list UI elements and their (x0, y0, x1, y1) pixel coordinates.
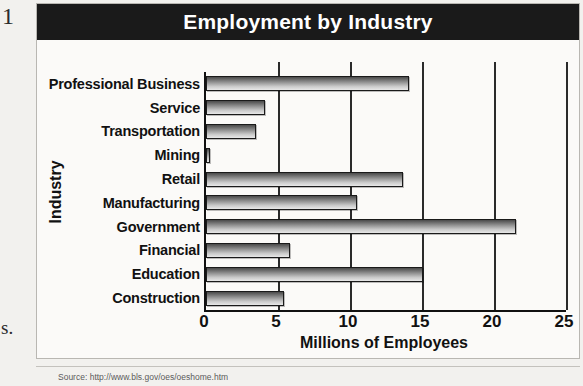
page-divider-rule (36, 366, 580, 367)
bar-row (206, 72, 409, 96)
category-label: Education (63, 262, 203, 286)
x-tick-label: 15 (411, 312, 430, 332)
bar-row (206, 120, 256, 144)
category-label: Service (63, 96, 203, 120)
bar (206, 267, 423, 282)
chart-title: Employment by Industry (183, 10, 432, 34)
category-label: Professional Business (63, 72, 203, 96)
x-tick-label: 5 (271, 312, 280, 332)
chart-figure: Employment by Industry Industry Professi… (36, 3, 580, 359)
bar-row (206, 143, 210, 167)
margin-text-fragment-bottom: s. (1, 318, 13, 337)
x-tick-label: 20 (483, 312, 502, 332)
category-label: Manufacturing (63, 191, 203, 215)
bar (206, 219, 516, 234)
bar-row (206, 167, 403, 191)
category-axis-labels: Professional BusinessServiceTransportati… (63, 72, 203, 310)
category-label: Construction (63, 286, 203, 310)
bar (206, 172, 403, 187)
bar (206, 124, 256, 139)
bar-row (206, 262, 423, 286)
x-axis-title: Millions of Employees (204, 334, 564, 352)
margin-text-fragment-top: 1 (2, 4, 14, 28)
bar-row (206, 191, 357, 215)
bar (206, 291, 284, 306)
source-note: Source: http://www.bls.gov/oes/oeshome.h… (58, 372, 228, 384)
x-tick-label: 0 (199, 312, 208, 332)
bar (206, 100, 265, 115)
category-label: Financial (63, 239, 203, 263)
category-label: Government (63, 215, 203, 239)
gridline (566, 62, 568, 310)
x-tick-label: 25 (555, 312, 574, 332)
x-axis-tick-labels: 0510152025 (204, 312, 564, 336)
bar (206, 195, 357, 210)
bar-row (206, 215, 516, 239)
bar-row (206, 286, 284, 310)
x-tick-label: 10 (339, 312, 358, 332)
bar-row (206, 239, 290, 263)
gridline (494, 62, 496, 310)
category-label: Mining (63, 143, 203, 167)
category-label: Retail (63, 167, 203, 191)
chart-title-banner: Employment by Industry (37, 4, 579, 40)
bar (206, 148, 210, 163)
bar (206, 243, 290, 258)
plot-container: Industry Professional BusinessServiceTra… (37, 40, 581, 360)
category-label: Transportation (63, 120, 203, 144)
bar (206, 76, 409, 91)
bar-row (206, 96, 265, 120)
plot-area (204, 72, 566, 312)
